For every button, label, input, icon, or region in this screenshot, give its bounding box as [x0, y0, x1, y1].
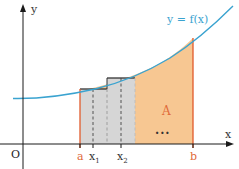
y-axis-label: y: [30, 3, 38, 16]
tick-label-x2: x2: [117, 150, 128, 165]
origin-label: O: [11, 148, 20, 161]
tick-label-b: b: [190, 150, 197, 163]
x-axis-label: x: [225, 128, 232, 141]
riemann-diagram: y x O y = f(x) A ... a x1 x2 b: [0, 0, 239, 169]
y-axis-arrow-icon: [20, 4, 26, 12]
area-label: A: [161, 104, 171, 118]
tick-label-x1: x1: [89, 150, 100, 165]
ellipsis-label: ...: [155, 123, 171, 137]
curve-label: y = f(x): [166, 13, 208, 26]
x-axis-arrow-icon: [226, 141, 234, 147]
tick-label-a: a: [77, 150, 84, 163]
rectangle-1: [80, 89, 107, 144]
